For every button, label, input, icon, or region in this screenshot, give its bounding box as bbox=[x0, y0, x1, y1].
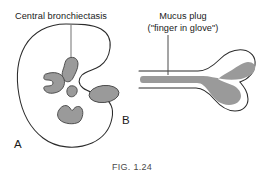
mucus-plug-fill bbox=[140, 62, 255, 105]
figure-caption: FIG. 1.24 bbox=[112, 162, 152, 172]
panel-b-label-line-2: ("finger in glove") bbox=[148, 23, 219, 33]
panel-b-group: B Mucus plug ("finger in glove") bbox=[122, 11, 255, 126]
right-ellipse-blob bbox=[88, 84, 120, 104]
central-small-blob bbox=[67, 86, 77, 97]
lung-outline-path bbox=[17, 24, 112, 147]
panel-b-label-line-1: Mucus plug bbox=[159, 11, 206, 21]
medical-illustration-svg: A Central bronchiectasis B Mucus plug ("… bbox=[0, 0, 264, 180]
lower-notched-blob bbox=[58, 106, 83, 124]
panel-a-label: Central bronchiectasis bbox=[15, 11, 107, 21]
panel-a-letter: A bbox=[14, 138, 22, 150]
panel-b-letter: B bbox=[122, 114, 130, 126]
panel-a-group: A Central bronchiectasis bbox=[14, 11, 120, 150]
figure-container: A Central bronchiectasis B Mucus plug ("… bbox=[0, 0, 264, 180]
